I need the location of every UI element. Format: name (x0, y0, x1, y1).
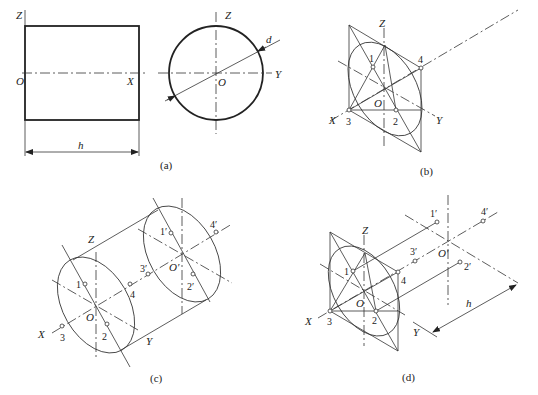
label-point-2-prime: 2′ (187, 281, 194, 292)
label-point-2: 2 (102, 331, 107, 342)
label-o: O (356, 297, 364, 309)
label-y: Y (413, 326, 421, 338)
dimension-arrow (167, 96, 175, 100)
label-point-1: 1 (344, 266, 349, 277)
label-y: Y (275, 68, 283, 80)
point-3 (60, 324, 64, 328)
label-point-1-prime: 1′ (160, 226, 167, 237)
caption-b: (b) (420, 165, 433, 178)
generator-line-bottom (121, 300, 206, 350)
caption-c: (c) (150, 372, 163, 385)
label-point-1: 1 (369, 53, 374, 64)
dimension-d-label: d (266, 33, 272, 45)
label-point-3: 3 (346, 116, 351, 127)
point-4 (419, 66, 423, 70)
label-point-3-prime: 3′ (410, 246, 417, 257)
label-point-3: 3 (327, 316, 332, 327)
label-point-4-prime: 4′ (210, 219, 217, 230)
label-point-2: 2 (372, 315, 377, 326)
label-z: Z (362, 224, 369, 236)
caption-a: (a) (160, 159, 173, 172)
panel-a: Z O X h Z O Y d (a) (16, 9, 283, 172)
label-point-1-prime: 1′ (430, 208, 437, 219)
label-x: X (328, 114, 337, 126)
generator-line-top (73, 210, 158, 260)
point-2 (394, 108, 398, 112)
dimension-h-line (433, 285, 516, 332)
point-3-prime (413, 259, 417, 263)
side-view: Z O Y d (158, 9, 283, 134)
point-4 (396, 270, 400, 274)
x-axis (330, 10, 518, 121)
panel-d: Z O O′ X Y h 1 2 3 4 1′ 2′ 3′ 4′ (d) (304, 195, 518, 384)
label-o: O (218, 76, 226, 88)
point-1-prime (435, 220, 439, 224)
construction-line (385, 45, 396, 110)
label-y: Y (146, 335, 154, 347)
point-3 (347, 108, 351, 112)
point-2-prime (191, 272, 195, 276)
label-y: Y (436, 114, 444, 126)
label-point-2: 2 (393, 116, 398, 127)
label-z: Z (379, 17, 386, 29)
y-axis-prime (405, 215, 518, 283)
label-x: X (37, 328, 46, 340)
label-z: Z (225, 9, 232, 21)
label-point-4: 4 (401, 275, 406, 286)
dimension-h-label: h (78, 139, 84, 151)
dimension-arrow (258, 47, 266, 51)
label-o: O (16, 75, 24, 87)
label-x: X (304, 315, 313, 327)
construction-line (349, 68, 421, 110)
point-1 (351, 269, 355, 273)
label-point-3: 3 (60, 332, 65, 343)
point-1 (83, 282, 87, 286)
point-4 (128, 282, 132, 286)
label-point-4: 4 (418, 54, 423, 65)
caption-d: (d) (402, 371, 415, 384)
label-z: Z (88, 233, 95, 245)
label-o: O (86, 311, 94, 323)
label-o: O (374, 97, 382, 109)
construction-line (153, 198, 210, 302)
point-2 (105, 322, 109, 326)
label-point-2-prime: 2′ (464, 261, 471, 272)
cylinder-isometric-construction-figure: Z O X h Z O Y d (a) (0, 0, 538, 395)
label-point-1: 1 (76, 279, 81, 290)
front-view: Z O X h (16, 9, 148, 156)
point-1 (371, 65, 375, 69)
label-o-prime: O′ (169, 261, 180, 273)
point-4-prime (481, 219, 485, 223)
point-2 (374, 309, 378, 313)
panel-b: Z O X Y 1 2 3 4 (b) (328, 10, 518, 178)
label-z: Z (16, 9, 23, 21)
label-point-4-prime: 4′ (481, 206, 488, 217)
point-4-prime (214, 230, 218, 234)
translation-line (376, 262, 460, 311)
label-point-3-prime: 3′ (140, 263, 147, 274)
label-x: X (126, 75, 135, 87)
point-1-prime (169, 231, 173, 235)
label-point-4: 4 (130, 289, 135, 300)
label-o-prime: O′ (438, 247, 449, 259)
point-3 (328, 309, 332, 313)
panel-c: Z O O′ X Y 1 2 3 4 1′ 2′ 3′ 4′ (c) (37, 192, 237, 385)
dimension-h-label: h (466, 297, 472, 309)
point-2-prime (458, 260, 462, 264)
